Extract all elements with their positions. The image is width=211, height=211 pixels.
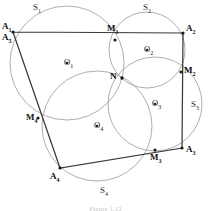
label-center-o3: O3: [152, 99, 161, 110]
label-point-m3: M3: [150, 153, 162, 164]
figure-caption: Figure 1.12: [0, 205, 211, 211]
label-center-o1: O1: [64, 58, 73, 69]
label-circle-s3: S3: [191, 100, 199, 111]
geometry-canvas: [0, 0, 211, 211]
label-vertex-a2: A2: [186, 24, 196, 35]
label-point-m2: M2: [184, 66, 196, 77]
label-vertex-a5: A5: [2, 33, 12, 44]
vertex-dot-a4: [58, 166, 61, 169]
label-point-n: N: [110, 72, 117, 81]
point-dot-m2: [179, 70, 182, 73]
label-center-o2: O2: [144, 45, 153, 56]
vertex-dot-a2: [181, 31, 184, 34]
label-circle-s2: S2: [143, 3, 151, 14]
label-point-m1: M1: [107, 24, 119, 35]
label-center-o4: O4: [94, 121, 103, 132]
label-vertex-a3: A3: [186, 145, 196, 156]
label-circle-s4: S4: [100, 186, 108, 197]
point-dot-n: [120, 76, 123, 79]
label-circle-s1: S1: [33, 3, 41, 14]
label-point-m4: M4: [26, 113, 38, 124]
label-vertex-a4: A4: [50, 172, 60, 183]
vertex-dot-a3: [180, 146, 183, 149]
point-dot-m1: [113, 38, 116, 41]
vertex-dot-a1: [11, 30, 14, 33]
geometry-figure: A1 A5 A2 A3 A4 M1 M2 M3 M4 N O1 O2 O3 O4…: [0, 0, 211, 211]
